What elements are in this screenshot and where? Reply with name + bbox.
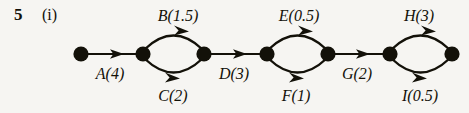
node-n7 — [444, 46, 459, 61]
edge-B — [145, 25, 202, 49]
node-n5 — [320, 46, 335, 61]
node-n4 — [259, 46, 274, 61]
edge-E — [269, 25, 326, 49]
edge-label-H: H(3) — [404, 8, 434, 24]
edge-G — [333, 49, 385, 59]
edge-label-D: D(3) — [219, 66, 249, 82]
edge-label-B: B(1.5) — [158, 8, 198, 24]
edge-F — [269, 59, 326, 83]
node-n6 — [382, 46, 397, 61]
edge-label-C: C(2) — [158, 88, 187, 104]
node-n2 — [135, 46, 150, 61]
edge-label-I: I(0.5) — [402, 88, 438, 104]
node-n1 — [73, 46, 88, 61]
edge-A — [86, 49, 138, 59]
edge-label-A: A(4) — [96, 66, 124, 82]
edge-H — [392, 25, 449, 49]
edge-C — [145, 59, 202, 83]
edge-label-E: E(0.5) — [279, 8, 319, 24]
edge-label-G: G(2) — [342, 66, 372, 82]
edge-I — [392, 59, 449, 83]
edge-D — [209, 49, 262, 59]
edge-label-F: F(1) — [282, 88, 310, 104]
activity-network-graph — [0, 0, 469, 113]
figure-canvas: 5 (i) — [0, 0, 469, 113]
node-n3 — [196, 46, 211, 61]
